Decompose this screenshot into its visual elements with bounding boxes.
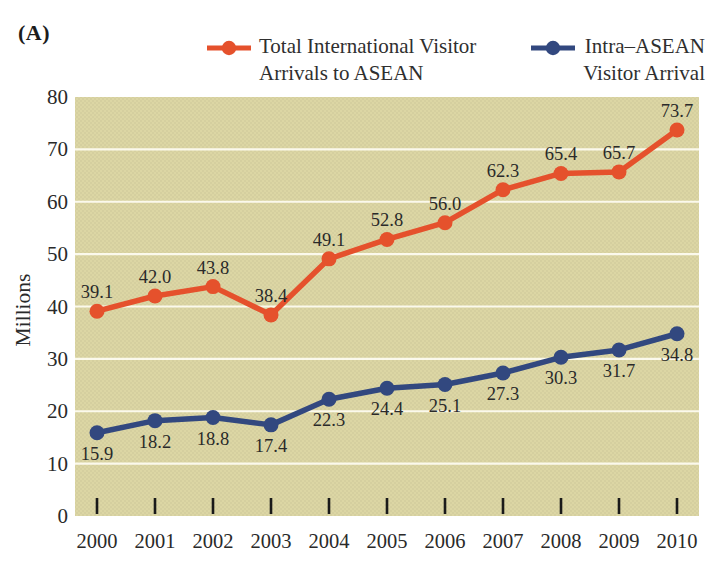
data-label: 52.8 [371, 210, 403, 230]
y-tick-label: 60 [47, 190, 68, 214]
y-tick-label: 30 [47, 347, 68, 371]
data-point [322, 392, 337, 407]
data-point [90, 425, 105, 440]
x-tick-label: 2007 [483, 530, 524, 552]
data-label: 56.0 [429, 194, 461, 214]
data-label: 18.8 [197, 429, 229, 449]
data-point [206, 410, 221, 425]
figure-panel: (A) Total International Visitor Arrivals… [0, 0, 719, 576]
x-tick-label: 2010 [657, 530, 698, 552]
data-label: 42.0 [139, 267, 171, 287]
x-tick-label: 2003 [251, 530, 292, 552]
data-point [554, 350, 569, 365]
y-tick-label: 40 [47, 295, 68, 319]
data-point [90, 304, 105, 319]
x-tick-label: 2009 [599, 530, 640, 552]
data-label: 38.4 [255, 286, 287, 306]
data-point [264, 307, 279, 322]
data-label: 65.4 [545, 144, 577, 164]
data-label: 15.9 [81, 444, 113, 464]
x-tick-label: 2004 [309, 530, 350, 552]
x-tick-label: 2002 [193, 530, 234, 552]
data-label: 43.8 [197, 258, 229, 278]
x-tick-label: 2006 [425, 530, 466, 552]
data-label: 62.3 [487, 161, 519, 181]
data-label: 65.7 [603, 143, 635, 163]
data-label: 17.4 [255, 436, 287, 456]
data-label: 30.3 [545, 368, 577, 388]
x-tick-label: 2005 [367, 530, 408, 552]
data-point [206, 279, 221, 294]
x-tick-label: 2008 [541, 530, 582, 552]
data-point [438, 377, 453, 392]
line-chart: 2000200120022003200420052006200720082009… [0, 0, 719, 576]
data-point [496, 182, 511, 197]
data-point [380, 381, 395, 396]
y-tick-label: 50 [47, 242, 68, 266]
data-label: 34.8 [661, 345, 693, 365]
data-point [612, 164, 627, 179]
data-point [380, 232, 395, 247]
data-point [496, 366, 511, 381]
data-point [264, 417, 279, 432]
data-point [554, 166, 569, 181]
y-tick-label: 0 [58, 504, 69, 528]
y-tick-label: 10 [47, 452, 68, 476]
data-point [322, 251, 337, 266]
y-tick-label: 80 [47, 85, 68, 109]
data-label: 18.2 [139, 432, 171, 452]
data-point [670, 326, 685, 341]
y-tick-label: 20 [47, 399, 68, 423]
y-axis-title: Millions [11, 274, 35, 347]
data-point [148, 413, 163, 428]
data-point [148, 289, 163, 304]
data-label: 49.1 [313, 230, 345, 250]
data-label: 39.1 [81, 282, 113, 302]
data-label: 25.1 [429, 396, 461, 416]
data-point [438, 215, 453, 230]
data-point [670, 122, 685, 137]
data-label: 73.7 [661, 101, 693, 121]
data-point [612, 342, 627, 357]
data-label: 24.4 [371, 399, 403, 419]
x-tick-label: 2001 [135, 530, 176, 552]
data-label: 31.7 [603, 361, 635, 381]
y-tick-label: 70 [47, 137, 68, 161]
x-tick-label: 2000 [77, 530, 118, 552]
data-label: 22.3 [313, 410, 345, 430]
data-label: 27.3 [487, 384, 519, 404]
